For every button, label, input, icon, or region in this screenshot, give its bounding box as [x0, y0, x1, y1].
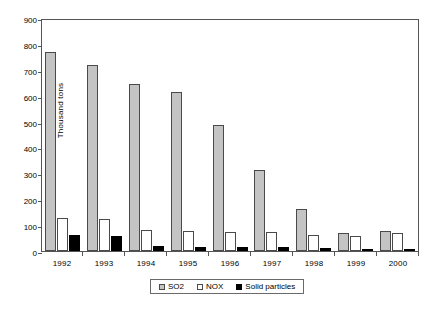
bar-solid-particles-1999: [362, 249, 373, 251]
bar-solid-particles-1993: [111, 236, 122, 251]
bar-so2-1992: [45, 52, 56, 251]
legend-swatch-icon: [159, 284, 165, 290]
y-axis-tick-label: 800: [8, 41, 42, 50]
y-axis-tick-label: 100: [8, 223, 42, 232]
legend-item-so2[interactable]: SO2: [159, 282, 184, 291]
x-axis-tick-label: 2000: [377, 253, 419, 268]
bar-group: [84, 20, 126, 251]
legend-label: SO2: [168, 282, 184, 291]
x-axis-tick-label: 1995: [167, 253, 209, 268]
y-axis-tick-label: 300: [8, 171, 42, 180]
legend-swatch-icon: [197, 284, 203, 290]
bar-solid-particles-1994: [153, 246, 164, 251]
bar-group: [209, 20, 251, 251]
legend-swatch-icon: [236, 284, 242, 290]
bar-solid-particles-1998: [320, 248, 331, 251]
bar-chart: Thousand tons 90080070060050040030020010…: [0, 0, 433, 310]
x-axis-tick-label: 1993: [83, 253, 125, 268]
y-axis-tick-label: 500: [8, 119, 42, 128]
plot-area: Thousand tons 90080070060050040030020010…: [41, 19, 419, 252]
bar-so2-1999: [338, 233, 349, 251]
y-axis-tick-label: 900: [8, 16, 42, 25]
bar-nox-1992: [57, 218, 68, 251]
bar-group: [126, 20, 168, 251]
bar-solid-particles-2000: [404, 249, 415, 251]
bar-so2-1993: [87, 65, 98, 251]
legend-item-solid-particles[interactable]: Solid particles: [236, 282, 295, 291]
bar-group: [334, 20, 376, 251]
bar-group: [293, 20, 335, 251]
x-axis-tick-label: 1997: [251, 253, 293, 268]
bar-solid-particles-1992: [69, 235, 80, 251]
bar-solid-particles-1996: [237, 247, 248, 251]
legend-label: NOX: [206, 282, 223, 291]
bar-solid-particles-1995: [195, 247, 206, 251]
y-axis-tick-label: 400: [8, 145, 42, 154]
bar-nox-1993: [99, 219, 110, 251]
legend-item-nox[interactable]: NOX: [197, 282, 223, 291]
y-axis-tick-label: 200: [8, 197, 42, 206]
y-axis-tick-label: 600: [8, 93, 42, 102]
bar-group: [42, 20, 84, 251]
bar-so2-2000: [380, 231, 391, 251]
bar-nox-1994: [141, 230, 152, 251]
x-axis-tick-label: 1994: [125, 253, 167, 268]
legend-label: Solid particles: [245, 282, 295, 291]
bar-nox-2000: [392, 233, 403, 251]
bar-so2-1995: [171, 92, 182, 251]
bar-group: [251, 20, 293, 251]
bar-so2-1996: [213, 125, 224, 251]
x-axis-tick-label: 1992: [41, 253, 83, 268]
y-axis-tick-label: 0: [8, 249, 42, 258]
x-axis-tick-label: 1999: [335, 253, 377, 268]
bar-so2-1994: [129, 84, 140, 251]
bar-so2-1997: [254, 170, 265, 251]
x-axis-tick-label: 1996: [209, 253, 251, 268]
bar-group: [167, 20, 209, 251]
bar-solid-particles-1997: [278, 247, 289, 251]
bar-nox-1995: [183, 231, 194, 251]
bar-nox-1996: [225, 232, 236, 251]
bars-area: [42, 20, 418, 251]
x-axis-labels: 199219931994199519961997199819992000: [41, 253, 419, 268]
bar-nox-1999: [350, 236, 361, 251]
x-axis-tick-label: 1998: [293, 253, 335, 268]
bar-nox-1998: [308, 235, 319, 251]
bar-nox-1997: [266, 232, 277, 251]
bar-group: [376, 20, 418, 251]
y-axis-tick-label: 700: [8, 67, 42, 76]
chart-legend: SO2NOXSolid particles: [150, 279, 304, 294]
bar-so2-1998: [296, 209, 307, 251]
